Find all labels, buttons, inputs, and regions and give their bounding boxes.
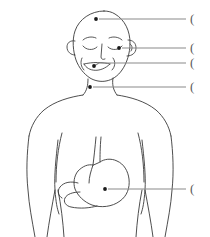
callout-lines — [93, 19, 186, 189]
marker-dot-stomach[interactable] — [103, 187, 107, 191]
mouth-lower-lip — [84, 64, 110, 70]
label-bracket-ear: ( — [190, 40, 194, 55]
anatomy-diagram: ( ( ( ( ( — [0, 0, 210, 237]
label-bracket-head: ( — [190, 11, 194, 26]
label-bracket-stomach: ( — [190, 181, 194, 196]
stomach-outline — [74, 159, 129, 206]
anatomy-illustration: ( ( ( ( ( — [0, 0, 210, 237]
torso-left-contour — [56, 133, 62, 182]
nose — [101, 44, 105, 59]
marker-dot-mouth[interactable] — [92, 64, 96, 68]
duodenum-lower — [64, 192, 97, 208]
torso-right-contour — [138, 133, 144, 182]
left-eyebrow — [83, 37, 96, 40]
callout-brackets: ( ( ( ( ( — [190, 11, 194, 196]
left-arm-inner-3 — [47, 190, 55, 237]
left-smile-crease — [81, 58, 84, 70]
marker-dot-ear[interactable] — [117, 46, 121, 50]
left-shoulder — [29, 95, 83, 136]
label-bracket-throat: ( — [190, 79, 194, 94]
left-eye-closed — [83, 46, 97, 50]
neck-left — [83, 79, 88, 95]
right-arm-inner-3 — [145, 190, 153, 237]
esophagus-left-wall — [93, 137, 96, 165]
right-smile-crease — [112, 58, 115, 70]
label-bracket-mouth: ( — [190, 55, 194, 70]
esophagus-right-wall — [100, 137, 101, 162]
left-arm-outer — [27, 136, 35, 237]
marker-dot-throat[interactable] — [88, 85, 92, 89]
marker-dot-head[interactable] — [94, 17, 98, 21]
right-arm-outer — [165, 136, 173, 237]
right-eyebrow — [109, 37, 122, 40]
right-shoulder — [117, 95, 171, 136]
stomach-lesser-curvature — [89, 165, 93, 183]
